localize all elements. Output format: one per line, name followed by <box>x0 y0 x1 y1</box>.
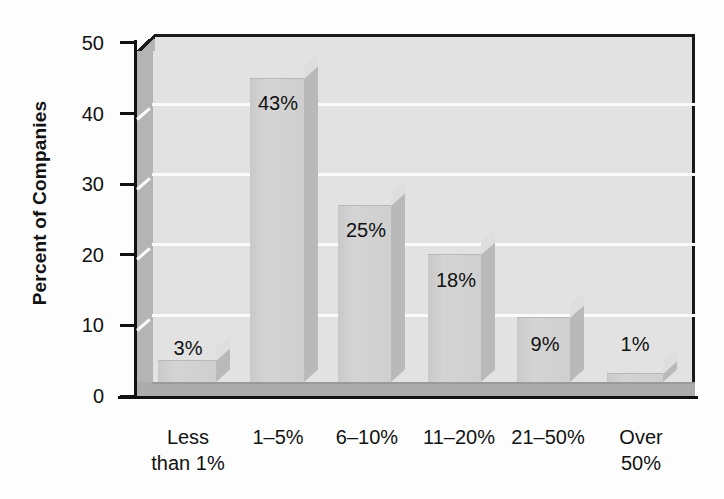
y-tick-label-50: 50 <box>58 33 104 53</box>
category-label-11-to-20: 11–20% <box>411 424 507 450</box>
y-tick-mark-40 <box>120 112 137 115</box>
x-axis-line <box>118 396 698 399</box>
bar-value-6-to-10: 25% <box>332 219 400 242</box>
bar-6-to-10[interactable] <box>338 34 391 382</box>
bar-over-50[interactable] <box>607 34 663 382</box>
category-label-less-than-1: Less than 1% <box>143 424 233 476</box>
y-tick-mark-30 <box>120 183 137 186</box>
bar-front-face <box>158 360 216 382</box>
bar-less-than-1[interactable] <box>158 34 216 382</box>
category-label-21-to-50: 21–50% <box>500 424 596 450</box>
category-label-6-to-10: 6–10% <box>322 424 412 450</box>
bar-21-to-50[interactable] <box>517 34 570 382</box>
plot-left-wall <box>137 48 153 396</box>
category-label-1-to-5: 1–5% <box>233 424 323 450</box>
bar-front-face <box>607 373 663 382</box>
y-axis-title: Percent of Companies <box>29 83 51 323</box>
y-tick-label-10: 10 <box>58 315 104 335</box>
category-label-over-50: Over 50% <box>596 424 686 476</box>
y-tick-label-0: 0 <box>58 386 104 406</box>
plot-top-bevel <box>137 34 155 51</box>
bar-value-21-to-50: 9% <box>512 333 578 356</box>
bar-value-1-to-5: 43% <box>244 92 312 115</box>
y-tick-label-30: 30 <box>58 174 104 194</box>
bar-value-over-50: 1% <box>602 333 668 356</box>
bar-front-face <box>250 78 304 382</box>
y-tick-mark-10 <box>120 324 137 327</box>
bar-side-face <box>481 242 495 382</box>
y-tick-label-40: 40 <box>58 104 104 124</box>
y-tick-mark-20 <box>120 253 137 256</box>
bar-value-less-than-1: 3% <box>152 337 224 360</box>
y-tick-mark-50 <box>120 41 137 44</box>
y-tick-label-20: 20 <box>58 245 104 265</box>
plot-floor-edge <box>152 382 695 384</box>
bar-value-11-to-20: 18% <box>422 269 490 292</box>
bar-chart: Percent of Companies 50 40 30 20 10 0 <box>0 0 724 499</box>
plot-floor <box>137 382 695 396</box>
bar-11-to-20[interactable] <box>428 34 481 382</box>
bar-1-to-5[interactable] <box>250 34 304 382</box>
